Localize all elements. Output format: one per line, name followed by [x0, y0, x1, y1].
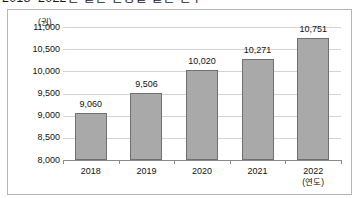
- bar[interactable]: [75, 113, 107, 160]
- y-axis-tick-labels: 11,00010,50010,0009,5009,0008,5008,000: [8, 27, 60, 160]
- x-axis-tick-mark: [174, 160, 175, 164]
- y-axis-tick-label: 10,000: [8, 67, 60, 76]
- x-axis-tick-mark: [341, 160, 342, 164]
- y-axis-tick-label: 8,500: [8, 133, 60, 142]
- bar-value-label: 10,271: [228, 46, 288, 55]
- bar-value-label: 9,060: [61, 100, 121, 109]
- y-axis-tick-label: 9,500: [8, 89, 60, 98]
- x-axis-tick-mark: [63, 160, 64, 164]
- x-axis-tick-label: 2019: [116, 166, 176, 176]
- y-axis-tick-label: 10,500: [8, 45, 60, 54]
- bar[interactable]: [186, 70, 218, 160]
- x-axis-tick-label: 2020: [172, 166, 232, 176]
- bar[interactable]: [297, 38, 329, 160]
- y-axis-tick-label: 8,000: [8, 156, 60, 165]
- bar[interactable]: [130, 93, 162, 160]
- y-axis-tick-label: 11,000: [8, 23, 60, 32]
- x-axis-tick-label: 2018: [61, 166, 121, 176]
- x-axis-line: [63, 160, 341, 161]
- x-axis-unit-label: (연도): [283, 177, 343, 187]
- bar-value-label: 10,020: [172, 57, 232, 66]
- bar[interactable]: [242, 59, 274, 160]
- x-axis-tick-mark: [230, 160, 231, 164]
- y-axis-tick-label: 9,000: [8, 111, 60, 120]
- x-axis-tick-label: 2021: [228, 166, 288, 176]
- bar-value-label: 10,751: [283, 25, 343, 34]
- chart-title: 2018~2022년 일반 연령별 일반 인구: [2, 0, 203, 5]
- chart-frame: (권) 11,00010,50010,0009,5009,0008,5008,0…: [7, 9, 352, 195]
- bar-value-label: 9,506: [116, 80, 176, 89]
- x-axis-tick-mark: [119, 160, 120, 164]
- x-axis-tick-label: 2022: [283, 166, 343, 176]
- plot-area: 9,0609,50610,02010,27110,751: [63, 27, 341, 160]
- x-axis-tick-mark: [285, 160, 286, 164]
